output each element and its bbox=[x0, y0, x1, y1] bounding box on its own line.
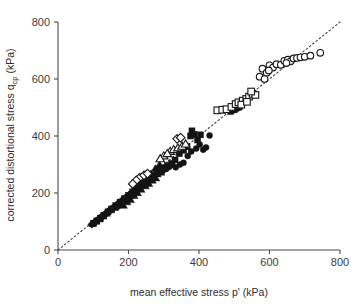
y-tick-label-200: 200 bbox=[32, 187, 50, 199]
series-open-circles bbox=[256, 49, 323, 82]
scatter-plot-figure: 0200400600800 0200400600800 mean effecti… bbox=[0, 0, 357, 308]
point-filled-squares bbox=[172, 157, 178, 163]
point-open-circles bbox=[283, 60, 290, 67]
point-open-circles bbox=[265, 67, 272, 74]
point-filled-circles bbox=[180, 160, 186, 166]
point-filled-circles bbox=[207, 132, 213, 138]
x-tick-label-400: 400 bbox=[190, 256, 208, 268]
x-tick-label-600: 600 bbox=[260, 256, 278, 268]
point-open-squares bbox=[248, 88, 255, 95]
point-open-circles bbox=[317, 49, 324, 56]
y-tick-label-400: 400 bbox=[32, 130, 50, 142]
point-open-squares bbox=[244, 99, 251, 106]
series-filled-diamonds bbox=[88, 170, 160, 229]
plot-canvas: 0200400600800 0200400600800 mean effecti… bbox=[0, 0, 357, 308]
y-tick-label-0: 0 bbox=[44, 244, 50, 256]
x-tick-label-0: 0 bbox=[55, 256, 61, 268]
y-axis-title: corrected distortional stress qcp (kPa) bbox=[4, 48, 19, 221]
point-filled-squares bbox=[191, 131, 197, 137]
point-open-circles bbox=[261, 76, 268, 83]
y-axis-tick-labels: 0200400600800 bbox=[32, 16, 50, 256]
x-axis-title: mean effective stress p' (kPa) bbox=[130, 286, 268, 298]
x-tick-label-800: 800 bbox=[331, 256, 349, 268]
y-axis-title-unit: (kPa) bbox=[4, 48, 16, 76]
y-tick-label-600: 600 bbox=[32, 73, 50, 85]
y-axis-title-subscript: cp bbox=[10, 76, 19, 84]
x-tick-label-200: 200 bbox=[119, 256, 137, 268]
y-tick-label-800: 800 bbox=[32, 16, 50, 28]
point-open-circles bbox=[307, 52, 314, 59]
y-axis-title-main: corrected distortional stress q bbox=[4, 84, 16, 221]
data-series-group bbox=[88, 49, 324, 228]
x-axis-tick-labels: 0200400600800 bbox=[55, 256, 349, 268]
point-filled-circles bbox=[203, 144, 209, 150]
point-filled-squares bbox=[197, 132, 203, 138]
